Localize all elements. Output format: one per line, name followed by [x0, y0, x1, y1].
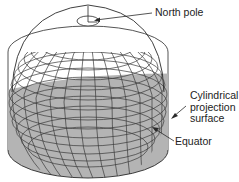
north-pole-label: North pole: [155, 7, 203, 19]
cylinder-label-line-3: surface: [190, 113, 238, 125]
equator-label: Equator: [175, 136, 212, 148]
cylindrical-projection-surface-label: Cylindrical projection surface: [190, 90, 238, 125]
diagram-canvas: North pole Cylindrical projection surfac…: [0, 0, 239, 182]
cylinder-label-line-1: Cylindrical: [190, 90, 238, 102]
north-pole-marker: [77, 6, 99, 26]
cylinder-leader: [171, 106, 186, 119]
